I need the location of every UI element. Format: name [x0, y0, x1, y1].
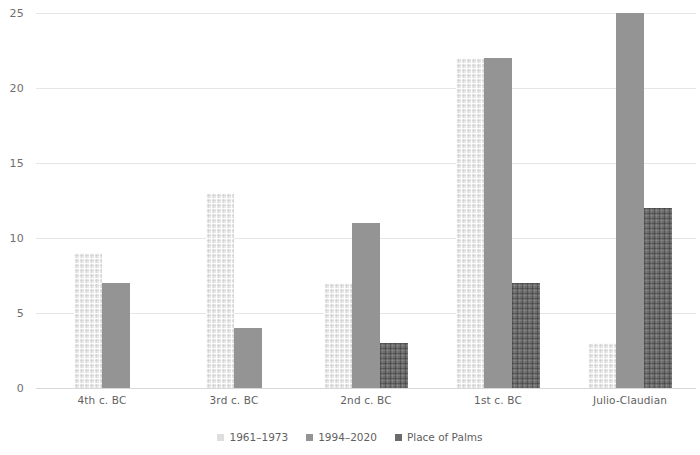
y-tick-label-25: 25	[0, 7, 24, 20]
x-tick-label-1: 4th c. BC	[36, 394, 168, 406]
bar	[512, 283, 540, 388]
legend-swatch-icon	[217, 434, 224, 441]
bar	[74, 253, 102, 388]
legend-item[interactable]: 1961–1973	[217, 432, 288, 443]
x-tick-label-5: Julio-Claudian	[564, 394, 696, 406]
y-tick-label-15: 15	[0, 157, 24, 170]
gridline-25	[36, 13, 696, 14]
legend-item[interactable]: 1994–2020	[306, 432, 377, 443]
bar	[234, 328, 262, 388]
y-tick-label-10: 10	[0, 232, 24, 245]
plot-area	[36, 13, 696, 388]
gridline-15	[36, 163, 696, 164]
bar	[644, 208, 672, 388]
legend-item[interactable]: Place of Palms	[395, 432, 483, 443]
x-tick-label-4: 1st c. BC	[432, 394, 564, 406]
legend-label: 1994–2020	[318, 432, 377, 443]
y-tick-label-5: 5	[0, 307, 24, 320]
x-tick-label-2: 3rd c. BC	[168, 394, 300, 406]
bar	[456, 58, 484, 388]
gridline-20	[36, 88, 696, 89]
bar	[206, 193, 234, 388]
bar	[324, 283, 352, 388]
legend-label: 1961–1973	[229, 432, 288, 443]
y-tick-label-0: 0	[0, 382, 24, 395]
gridline-0	[36, 388, 696, 389]
bar-chart: 0510152025 4th c. BC3rd c. BC2nd c. BC1s…	[0, 0, 700, 455]
chart-legend: 1961–19731994–2020Place of Palms	[0, 432, 700, 443]
bar	[380, 343, 408, 388]
legend-label: Place of Palms	[407, 432, 483, 443]
bar	[102, 283, 130, 388]
x-tick-label-3: 2nd c. BC	[300, 394, 432, 406]
bar	[352, 223, 380, 388]
legend-swatch-icon	[395, 434, 402, 441]
legend-swatch-icon	[306, 434, 313, 441]
bar	[484, 58, 512, 388]
bar	[616, 13, 644, 388]
bar	[588, 343, 616, 388]
y-tick-label-20: 20	[0, 82, 24, 95]
